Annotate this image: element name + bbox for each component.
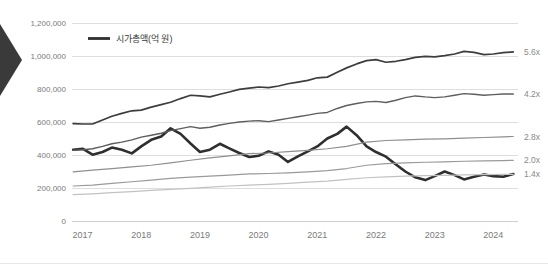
x-tick-label: 2018 — [131, 230, 151, 240]
x-axis-labels: 20172018201920202021202220232024 — [73, 230, 504, 240]
x-tick-label: 2021 — [307, 230, 327, 240]
x-tick-label: 2020 — [249, 230, 269, 240]
x-tick-label: 2022 — [366, 230, 386, 240]
y-tick-label: 800,000 — [37, 85, 66, 94]
x-tick-label: 2017 — [73, 230, 93, 240]
y-tick-label: 400,000 — [37, 151, 66, 160]
y-tick-label: 1,200,000 — [30, 19, 66, 28]
right-annotation-label: 2.0x — [524, 155, 541, 165]
right-annotation-label: 1.4x — [524, 169, 541, 179]
y-tick-label: 0 — [62, 217, 67, 226]
right-annotation-label: 5.6x — [524, 47, 541, 57]
line-chart: 1,200,000 1,000,000 800,000 600,000 400,… — [0, 0, 548, 266]
x-tick-label: 2019 — [190, 230, 210, 240]
x-tick-label: 2024 — [483, 230, 503, 240]
y-tick-label: 200,000 — [37, 184, 66, 193]
x-tick-label: 2023 — [425, 230, 445, 240]
right-annotation-label: 4.2x — [524, 89, 541, 99]
series-line-2.8x — [73, 137, 513, 172]
legend-label: 시가총액(억 원) — [116, 33, 173, 44]
y-axis-labels: 1,200,000 1,000,000 800,000 600,000 400,… — [30, 19, 66, 226]
right-annotations: 5.6x4.2x2.8x2.0x1.4x — [524, 47, 541, 179]
series-line-5.6x — [73, 51, 513, 124]
chart-screenshot: 1,200,000 1,000,000 800,000 600,000 400,… — [0, 0, 548, 266]
y-tick-label: 1,000,000 — [30, 52, 66, 61]
legend: 시가총액(억 원) — [88, 33, 173, 44]
right-annotation-label: 2.8x — [524, 132, 541, 142]
y-tick-label: 600,000 — [37, 118, 66, 127]
series-line-1.4x — [73, 174, 513, 194]
